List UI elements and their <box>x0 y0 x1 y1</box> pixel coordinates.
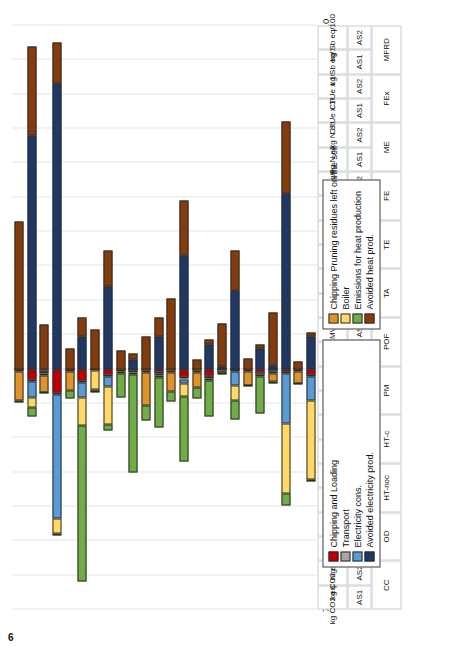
bar-row <box>243 25 252 609</box>
bar-segment <box>27 381 36 396</box>
legend-item: Transport <box>339 346 351 561</box>
bar-segment <box>27 397 36 407</box>
bar-row <box>204 25 213 609</box>
bar-row <box>255 25 264 609</box>
bar-segment <box>90 370 99 389</box>
bar-segment <box>243 371 252 385</box>
bar-segment <box>27 46 36 135</box>
bar-row <box>192 25 201 609</box>
category-impact-cell: MFRD <box>371 25 401 74</box>
legend-item: Electricity cons. <box>351 346 363 561</box>
bar-segment <box>192 372 201 387</box>
bar-segment <box>154 317 163 336</box>
bar-segment <box>281 121 290 193</box>
bar-segment <box>103 286 112 368</box>
bar-segment <box>65 371 74 390</box>
bar-segment <box>141 405 150 420</box>
bar-row <box>128 25 137 609</box>
bar-row <box>268 25 277 609</box>
bar-row <box>179 25 188 609</box>
bar-row <box>141 25 150 609</box>
legend-swatch-icon <box>340 551 350 561</box>
bar-segment <box>14 400 23 402</box>
bar-segment <box>65 348 74 369</box>
page-number: 6 <box>8 632 14 643</box>
legend-swatch-icon <box>328 313 338 323</box>
bar-segment <box>52 83 61 368</box>
bar-segment <box>179 379 188 383</box>
legend-label: Electricity cons. <box>352 484 362 547</box>
bar-segment <box>179 255 188 368</box>
bar-segment <box>268 312 277 365</box>
bar-segment <box>128 359 137 369</box>
legend-swatch-icon <box>364 313 374 323</box>
bar-segment <box>230 385 239 400</box>
bar-segment <box>281 423 290 493</box>
legend-item: Emissions for heat production <box>351 186 363 323</box>
legend-swatch-icon <box>328 551 338 561</box>
bar-row <box>103 25 112 609</box>
bar-segment <box>103 250 112 286</box>
bar-segment <box>154 336 163 369</box>
bar-segment <box>293 371 302 383</box>
category-impact-cell: CC <box>371 560 401 609</box>
bar-segment <box>204 380 213 416</box>
bar-segment <box>141 372 150 405</box>
legend-swatch-icon <box>352 313 362 323</box>
legend-label: Chipping Pruning residues left on the so… <box>328 145 338 309</box>
bar-row <box>166 25 175 609</box>
legend-label: Avoided electricity prod. <box>364 452 374 547</box>
plot-area <box>12 25 317 609</box>
bar-segment <box>179 369 188 378</box>
bar-segment <box>306 332 315 335</box>
legend-item: Avoided heat prod. <box>363 186 375 323</box>
bar-segment <box>230 371 239 385</box>
bar-segment <box>306 400 315 479</box>
bar-segment <box>204 344 213 368</box>
bar-row <box>14 25 23 609</box>
bar-segment <box>52 42 61 83</box>
bar-segment <box>217 323 226 366</box>
bar-segment <box>166 391 175 401</box>
bar-segment <box>52 369 61 393</box>
bar-segment <box>306 479 315 481</box>
category-scenario-cell: AS1 <box>347 49 371 73</box>
bar-segment <box>154 377 163 427</box>
legend-swatch-icon <box>340 313 350 323</box>
bar-segment <box>243 384 252 386</box>
bar-segment <box>217 372 226 374</box>
bar-row <box>217 25 226 609</box>
category-scenario-cell: AS2 <box>347 25 371 49</box>
bar-segment <box>77 336 86 369</box>
bar-segment <box>103 424 112 430</box>
bar-segment <box>141 336 150 369</box>
impact-score-chart: 76543210-1-2-3-4-5-6-7-8-9-10 Impact Sco… <box>0 0 456 647</box>
category-scenario-cell: AS1 <box>347 147 371 171</box>
rotated-figure-wrapper: 76543210-1-2-3-4-5-6-7-8-9-10 Impact Sco… <box>0 0 456 647</box>
bar-row <box>27 25 36 609</box>
bar-segment <box>77 382 86 397</box>
bar-segment <box>243 358 252 368</box>
bar-segment <box>281 373 290 423</box>
bar-segment <box>128 353 137 359</box>
bar-segment <box>27 407 36 416</box>
bar-segment <box>255 348 264 369</box>
legend-item: Avoided electricity prod. <box>363 346 375 561</box>
bar-segment <box>293 361 302 369</box>
bar-segment <box>306 336 315 369</box>
bar-row <box>77 25 86 609</box>
bar-segment <box>179 383 188 396</box>
bar-segment <box>128 374 137 472</box>
bar-row <box>154 25 163 609</box>
bar-segment <box>77 317 86 336</box>
bar-row <box>230 25 239 609</box>
bar-segment <box>77 425 86 581</box>
bar-row <box>293 25 302 609</box>
legend-label: Avoided heat prod. <box>364 234 374 309</box>
bar-segment <box>166 372 175 391</box>
bar-row <box>116 25 125 609</box>
legend-label: Boiler <box>340 286 350 309</box>
category-scenario-cell: AS1 <box>347 585 371 609</box>
legend-label: Chipping and Loading <box>328 459 338 547</box>
document-page: 76543210-1-2-3-4-5-6-7-8-9-10 Impact Sco… <box>0 0 456 647</box>
